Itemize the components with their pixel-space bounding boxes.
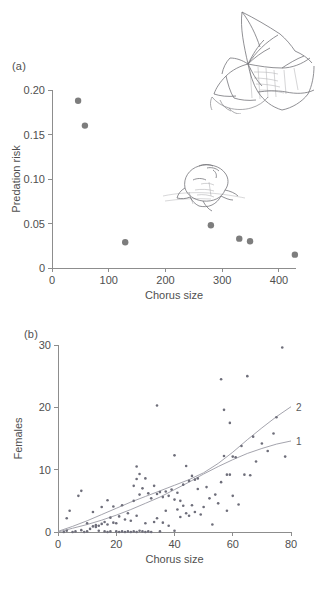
data-point (106, 523, 109, 526)
data-point (106, 499, 109, 502)
data-point (185, 512, 188, 515)
data-point (240, 445, 243, 448)
data-point (121, 504, 124, 507)
data-point (115, 522, 118, 525)
data-point (261, 442, 264, 445)
data-point (170, 488, 173, 491)
data-point (135, 531, 138, 534)
data-point (188, 480, 191, 483)
y-axis-title: Females (12, 417, 24, 460)
data-point (132, 530, 135, 533)
data-point (237, 503, 240, 506)
data-point (249, 474, 252, 477)
data-point (135, 478, 138, 481)
data-point (220, 481, 223, 484)
data-point (141, 487, 144, 490)
data-point (272, 432, 275, 435)
data-point (275, 416, 278, 419)
data-point (153, 485, 156, 488)
data-point (197, 488, 200, 491)
data-point (100, 523, 103, 526)
data-point (202, 506, 205, 509)
data-point (162, 496, 165, 499)
data-point (127, 512, 130, 515)
data-point (83, 531, 86, 534)
data-point (92, 511, 95, 514)
data-point (144, 531, 147, 534)
data-point (147, 492, 150, 495)
panel-b: (b) 0102030020406080Chorus sizeFemales12 (0, 300, 321, 590)
y-tick-label: 20 (39, 401, 51, 413)
data-point (182, 505, 185, 508)
data-point (236, 235, 242, 241)
data-point (118, 515, 121, 518)
x-tick-label: 200 (156, 274, 174, 286)
data-point (121, 530, 124, 533)
data-point (65, 517, 68, 520)
data-point (194, 478, 197, 481)
x-tick-label: 100 (100, 274, 118, 286)
data-point (75, 97, 81, 103)
y-tick-label: 0.10 (24, 173, 45, 185)
data-point (100, 506, 103, 509)
data-point (103, 530, 106, 533)
data-point (138, 473, 141, 476)
data-point (179, 500, 182, 503)
data-point (159, 530, 162, 533)
y-axis-title: Predation risk (10, 145, 22, 213)
data-point (144, 522, 147, 525)
data-point (138, 493, 141, 496)
x-tick-label: 0 (49, 274, 55, 286)
data-point (124, 531, 127, 534)
data-point (112, 521, 115, 524)
data-point (156, 517, 159, 520)
x-tick-label: 80 (285, 538, 297, 550)
data-point (185, 465, 188, 468)
axis-frame (52, 90, 296, 268)
data-point (231, 455, 234, 458)
data-point (89, 528, 92, 531)
data-point (173, 498, 176, 501)
data-point (188, 514, 191, 517)
data-point (65, 529, 68, 532)
x-tick-label: 20 (110, 538, 122, 550)
data-point (86, 530, 89, 533)
data-point (97, 524, 100, 527)
panel-a-plot: 00.050.100.150.200100200300400Chorus siz… (0, 0, 321, 300)
data-point (92, 525, 95, 528)
data-point (68, 510, 71, 513)
y-tick-label: 0.05 (24, 218, 45, 230)
x-axis-title: Chorus size (145, 553, 203, 565)
data-point (132, 500, 135, 503)
panel-a: (a) 00.050.100.150.200100200300400Chorus… (0, 0, 321, 300)
data-point (106, 531, 109, 534)
y-tick-label: 0 (45, 526, 51, 538)
curve-label-1: 1 (296, 436, 302, 447)
data-point (132, 485, 135, 488)
data-point (234, 456, 237, 459)
x-tick-label: 0 (55, 538, 61, 550)
data-point (211, 523, 214, 526)
data-point (167, 495, 170, 498)
data-point (159, 491, 162, 494)
data-point (182, 483, 185, 486)
figure-panels: (a) 00.050.100.150.200100200300400Chorus… (0, 0, 321, 590)
data-point (292, 251, 298, 257)
data-point (71, 531, 74, 534)
data-point (208, 497, 211, 500)
data-point (122, 239, 128, 245)
data-point (164, 510, 167, 513)
data-point (138, 529, 141, 532)
data-point (80, 529, 83, 532)
data-point (252, 435, 255, 438)
y-tick-label: 0 (39, 262, 45, 274)
data-point (124, 518, 127, 521)
data-point (150, 497, 153, 500)
data-point (63, 531, 66, 534)
data-point (162, 521, 165, 524)
data-point (226, 510, 229, 513)
axis-frame (58, 345, 291, 532)
y-tick-label: 30 (39, 339, 51, 351)
data-point (231, 495, 234, 498)
data-point (176, 491, 179, 494)
